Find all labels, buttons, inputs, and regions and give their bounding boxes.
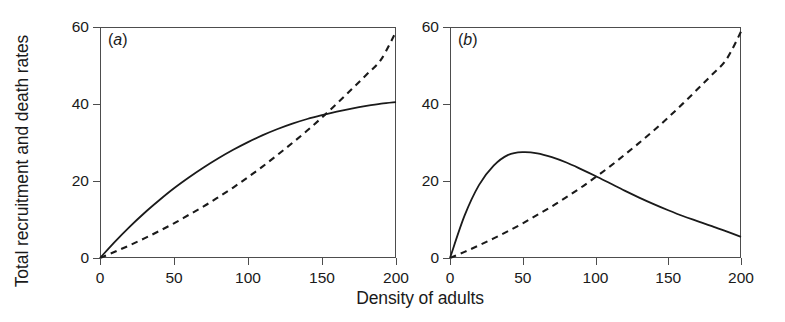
x-tick-b-200 (741, 258, 742, 265)
y-tick-label-b-20: 20 (422, 172, 439, 190)
panel-b-curves (450, 27, 741, 258)
curve-b-recruitment-rate (450, 152, 741, 258)
y-tick-b-40 (443, 104, 450, 105)
x-tick-label-b-150: 150 (655, 269, 681, 287)
x-tick-a-150 (322, 258, 323, 265)
panel-b: (b) 0204060050100150200 (450, 27, 741, 258)
y-tick-b-20 (443, 181, 450, 182)
y-tick-a-40 (93, 104, 100, 105)
x-tick-b-50 (523, 258, 524, 265)
x-tick-label-b-50: 50 (514, 269, 531, 287)
x-tick-label-b-100: 100 (583, 269, 609, 287)
x-tick-a-200 (396, 258, 397, 265)
y-tick-a-0 (93, 258, 100, 259)
x-tick-label-a-200: 200 (383, 269, 409, 287)
x-tick-b-150 (668, 258, 669, 265)
y-tick-label-a-20: 20 (72, 172, 89, 190)
x-tick-label-a-150: 150 (309, 269, 335, 287)
x-tick-a-100 (248, 258, 249, 265)
x-tick-b-100 (596, 258, 597, 265)
y-tick-a-60 (93, 27, 100, 28)
panel-a-curves (100, 27, 396, 258)
y-tick-label-b-60: 60 (422, 18, 439, 36)
panel-a: (a) 0204060050100150200 (100, 27, 396, 258)
y-tick-label-a-60: 60 (72, 18, 89, 36)
x-tick-a-0 (100, 258, 101, 265)
y-tick-label-a-40: 40 (72, 95, 89, 113)
y-tick-b-0 (443, 258, 450, 259)
x-tick-b-0 (450, 258, 451, 265)
y-tick-b-60 (443, 27, 450, 28)
x-tick-label-a-100: 100 (235, 269, 261, 287)
curve-a-recruitment-rate (100, 102, 396, 258)
x-tick-label-b-200: 200 (728, 269, 754, 287)
curve-b-death-rate (450, 32, 741, 258)
y-tick-label-b-0: 0 (430, 249, 439, 267)
x-tick-label-a-0: 0 (96, 269, 105, 287)
y-axis-label: Total recruitment and death rates (0, 0, 44, 322)
x-axis-label: Density of adults (260, 288, 580, 309)
figure-root: Total recruitment and death rates Densit… (0, 0, 785, 322)
y-tick-label-a-0: 0 (80, 249, 89, 267)
x-tick-label-a-50: 50 (165, 269, 182, 287)
y-tick-label-b-40: 40 (422, 95, 439, 113)
x-tick-label-b-0: 0 (446, 269, 455, 287)
curve-a-death-rate (100, 32, 396, 258)
x-tick-a-50 (174, 258, 175, 265)
y-tick-a-20 (93, 181, 100, 182)
